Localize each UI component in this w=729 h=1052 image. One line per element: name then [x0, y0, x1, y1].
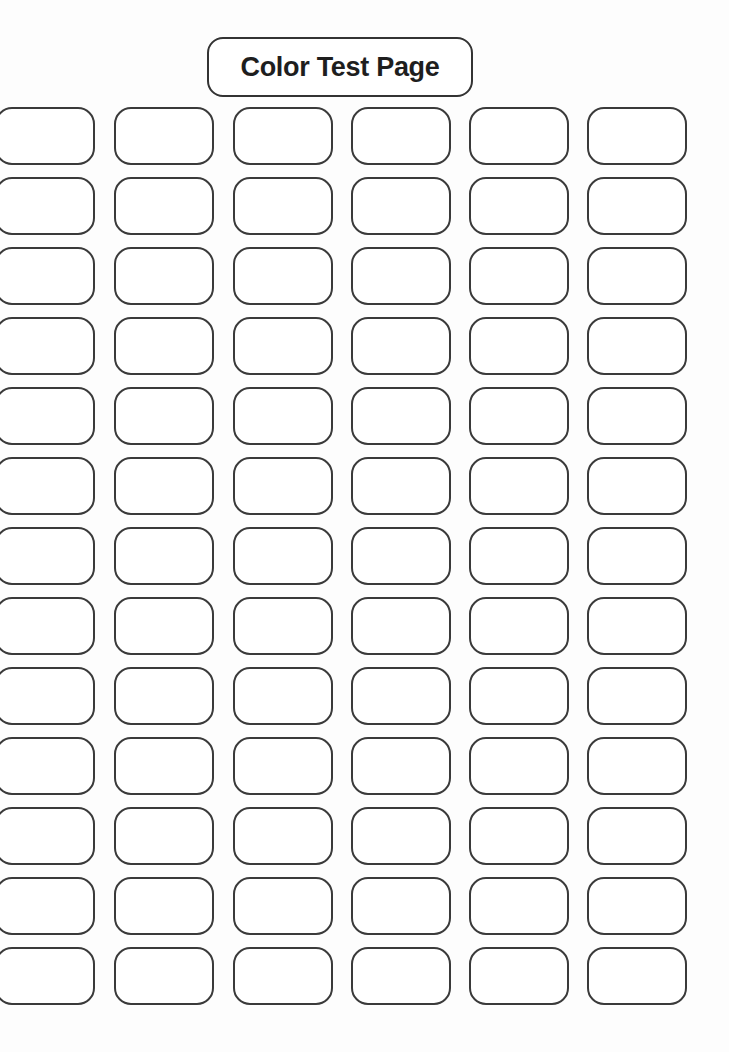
color-swatch-r10-c5	[469, 737, 569, 795]
color-swatch-r6-c3	[233, 457, 333, 515]
color-swatch-r8-c3	[233, 597, 333, 655]
color-swatch-r4-c1	[0, 317, 95, 375]
color-swatch-r8-c6	[587, 597, 687, 655]
color-swatch-r1-c6	[587, 107, 687, 165]
color-swatch-r13-c5	[469, 947, 569, 1005]
color-swatch-r6-c5	[469, 457, 569, 515]
color-swatch-r6-c6	[587, 457, 687, 515]
color-swatch-r3-c2	[114, 247, 214, 305]
color-swatch-r7-c1	[0, 527, 95, 585]
color-swatch-r11-c1	[0, 807, 95, 865]
color-swatch-r10-c2	[114, 737, 214, 795]
color-swatch-r5-c1	[0, 387, 95, 445]
color-swatch-r3-c5	[469, 247, 569, 305]
color-swatch-r10-c6	[587, 737, 687, 795]
color-swatch-r2-c3	[233, 177, 333, 235]
color-swatch-r13-c1	[0, 947, 95, 1005]
color-swatch-r11-c2	[114, 807, 214, 865]
color-swatch-r12-c2	[114, 877, 214, 935]
color-swatch-r6-c4	[351, 457, 451, 515]
color-swatch-r7-c6	[587, 527, 687, 585]
color-swatch-r2-c5	[469, 177, 569, 235]
color-swatch-r2-c2	[114, 177, 214, 235]
color-swatch-grid	[0, 0, 729, 1052]
color-swatch-r4-c3	[233, 317, 333, 375]
color-swatch-r1-c2	[114, 107, 214, 165]
color-swatch-r1-c4	[351, 107, 451, 165]
color-swatch-r11-c5	[469, 807, 569, 865]
color-swatch-r10-c4	[351, 737, 451, 795]
color-swatch-r11-c6	[587, 807, 687, 865]
color-swatch-r7-c4	[351, 527, 451, 585]
color-swatch-r12-c4	[351, 877, 451, 935]
color-swatch-r5-c6	[587, 387, 687, 445]
color-swatch-r4-c4	[351, 317, 451, 375]
color-swatch-r7-c5	[469, 527, 569, 585]
color-swatch-r12-c5	[469, 877, 569, 935]
color-swatch-r8-c1	[0, 597, 95, 655]
color-swatch-r12-c6	[587, 877, 687, 935]
color-swatch-r13-c2	[114, 947, 214, 1005]
color-swatch-r8-c4	[351, 597, 451, 655]
color-swatch-r11-c3	[233, 807, 333, 865]
color-swatch-r9-c3	[233, 667, 333, 725]
color-swatch-r8-c2	[114, 597, 214, 655]
color-swatch-r2-c6	[587, 177, 687, 235]
color-swatch-r7-c3	[233, 527, 333, 585]
color-swatch-r9-c6	[587, 667, 687, 725]
color-swatch-r4-c2	[114, 317, 214, 375]
color-swatch-r5-c3	[233, 387, 333, 445]
color-swatch-r4-c6	[587, 317, 687, 375]
color-swatch-r8-c5	[469, 597, 569, 655]
color-swatch-r5-c2	[114, 387, 214, 445]
color-swatch-r12-c1	[0, 877, 95, 935]
color-swatch-r3-c4	[351, 247, 451, 305]
color-swatch-r10-c3	[233, 737, 333, 795]
color-swatch-r11-c4	[351, 807, 451, 865]
color-swatch-r10-c1	[0, 737, 95, 795]
color-swatch-r7-c2	[114, 527, 214, 585]
color-swatch-r1-c5	[469, 107, 569, 165]
color-swatch-r9-c5	[469, 667, 569, 725]
color-swatch-r2-c4	[351, 177, 451, 235]
color-swatch-r13-c3	[233, 947, 333, 1005]
color-swatch-r5-c5	[469, 387, 569, 445]
color-swatch-r2-c1	[0, 177, 95, 235]
color-swatch-r3-c6	[587, 247, 687, 305]
color-swatch-r13-c4	[351, 947, 451, 1005]
color-swatch-r6-c1	[0, 457, 95, 515]
color-swatch-r1-c1	[0, 107, 95, 165]
color-swatch-r4-c5	[469, 317, 569, 375]
color-swatch-r6-c2	[114, 457, 214, 515]
color-swatch-r3-c3	[233, 247, 333, 305]
color-swatch-r12-c3	[233, 877, 333, 935]
color-swatch-r5-c4	[351, 387, 451, 445]
color-swatch-r1-c3	[233, 107, 333, 165]
color-swatch-r9-c2	[114, 667, 214, 725]
color-swatch-r13-c6	[587, 947, 687, 1005]
color-swatch-r9-c4	[351, 667, 451, 725]
color-swatch-r3-c1	[0, 247, 95, 305]
color-swatch-r9-c1	[0, 667, 95, 725]
